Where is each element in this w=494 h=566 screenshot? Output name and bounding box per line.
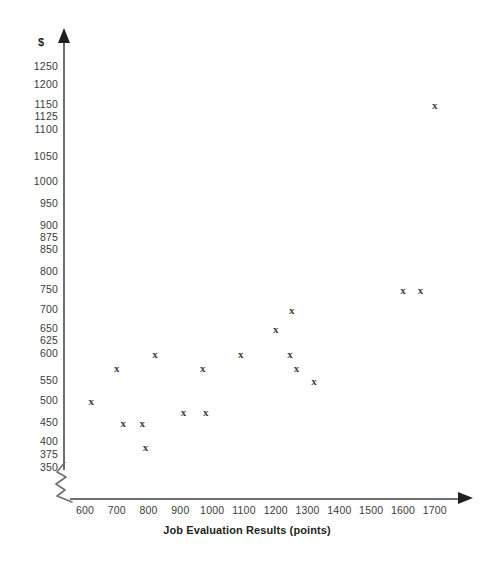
data-point-marker: x — [308, 375, 319, 387]
data-point-marker: x — [200, 406, 211, 418]
data-point-marker: x — [429, 99, 440, 111]
data-point-marker: x — [398, 284, 409, 296]
x-axis-line — [70, 498, 462, 500]
y-axis-tick-label: 875 — [20, 232, 58, 243]
y-axis-tick-label: 1250 — [20, 61, 58, 72]
y-axis-tick-label: 650 — [20, 323, 58, 334]
y-axis-tick-label: 1100 — [20, 124, 58, 135]
data-point-marker: x — [415, 284, 426, 296]
axis-break-icon — [52, 462, 82, 504]
y-axis-tick-label: 1000 — [20, 176, 58, 187]
y-axis-tick-label: 750 — [20, 284, 58, 295]
y-axis-tick-label: 400 — [20, 436, 58, 447]
y-axis-tick-label: 600 — [20, 348, 58, 359]
data-point-marker: x — [285, 348, 296, 360]
data-point-marker: x — [286, 304, 297, 316]
data-point-marker: x — [111, 362, 122, 374]
y-axis-tick-label: 500 — [20, 395, 58, 406]
y-axis-tick-label: 950 — [20, 198, 58, 209]
y-axis-tick-label: 900 — [20, 220, 58, 231]
y-axis-tick-label: 1150 — [20, 99, 58, 110]
y-axis-tick-label: 375 — [20, 449, 58, 460]
y-axis-tick-label: 1125 — [20, 111, 58, 122]
y-axis-tick-label: 800 — [20, 266, 58, 277]
y-axis-arrow-icon — [58, 28, 70, 43]
y-axis-tick-label: 550 — [20, 375, 58, 386]
x-axis-tick-label: 1700 — [415, 504, 455, 516]
y-axis-tick-label: 850 — [20, 244, 58, 255]
y-axis-line — [63, 40, 65, 470]
y-axis-tick-label: 1050 — [20, 151, 58, 162]
data-point-marker: x — [149, 348, 160, 360]
data-point-marker: x — [235, 348, 246, 360]
data-point-marker: x — [86, 395, 97, 407]
y-axis-tick-label: 450 — [20, 417, 58, 428]
y-axis-tick-label: 1200 — [20, 79, 58, 90]
x-axis-arrow-icon — [458, 492, 473, 504]
data-point-marker: x — [118, 417, 129, 429]
data-point-marker: x — [197, 362, 208, 374]
y-axis-tick-label: 625 — [20, 335, 58, 346]
x-axis-title: Job Evaluation Results (points) — [0, 524, 494, 536]
scatter-chart: $ 12501200115011251100105010009509008758… — [0, 0, 494, 566]
data-point-marker: x — [291, 362, 302, 374]
data-point-marker: x — [270, 323, 281, 335]
data-point-marker: x — [178, 406, 189, 418]
data-point-marker: x — [137, 417, 148, 429]
y-axis-tick-label: 700 — [20, 304, 58, 315]
y-axis-tick-labels: 1250120011501125110010501000950900875850… — [18, 0, 58, 500]
data-point-marker: x — [140, 441, 151, 453]
